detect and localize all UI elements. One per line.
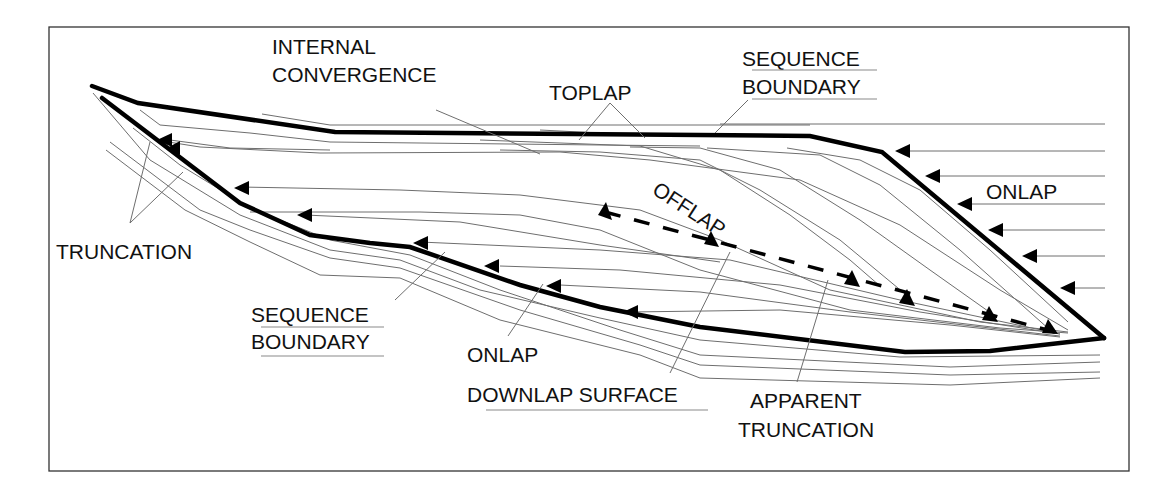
label-sequence-boundary-top: SEQUENCE <box>742 47 860 70</box>
onlap-arrows-left <box>157 133 638 319</box>
stratigraphy-diagram: INTERNAL CONVERGENCE TOPLAP SEQUENCE BOU… <box>0 0 1168 495</box>
label-truncation: TRUNCATION <box>56 240 192 263</box>
label-onlap-bottom: ONLAP <box>467 343 538 366</box>
label-internal-convergence: INTERNAL <box>272 35 376 58</box>
label-sequence-boundary-bottom: SEQUENCE <box>251 303 369 326</box>
lower-reflectors <box>93 93 1100 385</box>
label-apparent-truncation: APPARENT <box>750 389 862 412</box>
label-onlap-right: ONLAP <box>986 180 1057 203</box>
label-toplap: TOPLAP <box>549 81 631 104</box>
label-internal-convergence-2: CONVERGENCE <box>272 63 437 86</box>
label-sequence-boundary-bottom-2: BOUNDARY <box>251 330 370 353</box>
right-onlap-reflectors <box>720 124 1105 288</box>
label-downlap-surface: DOWNLAP SURFACE <box>467 383 678 406</box>
label-sequence-boundary-top-2: BOUNDARY <box>742 75 861 98</box>
label-apparent-truncation-2: TRUNCATION <box>738 418 874 441</box>
label-offlap: OFFLAP <box>649 177 730 241</box>
